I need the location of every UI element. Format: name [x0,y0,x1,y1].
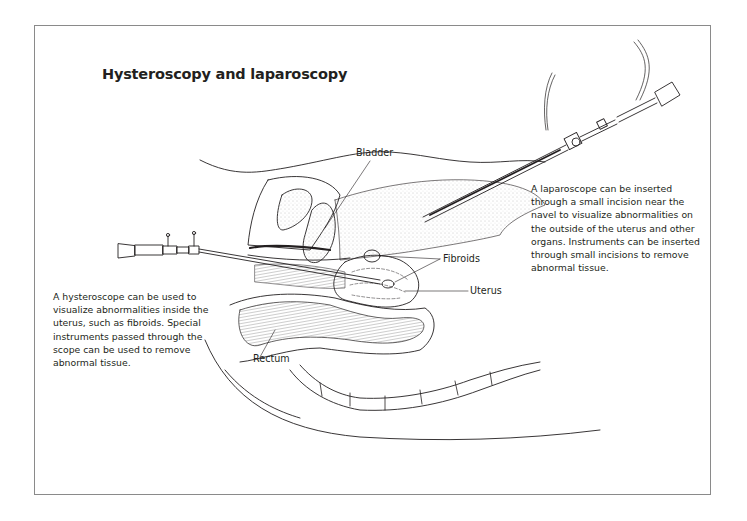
caption-line: abnormal tissue. [53,356,208,369]
caption-line: through a small incision near the [531,195,700,208]
uterus-shape [334,255,419,307]
caption-line: visualize abnormalities inside the [53,303,208,316]
caption-line: instruments passed through the [53,330,208,343]
sacrum [290,362,540,410]
caption-line: A laparoscope can be inserted [531,182,700,195]
caption-line: A hysteroscope can be used to [53,290,208,303]
caption-line: navel to visualize abnormalities on [531,208,700,221]
caption-hysteroscope: A hysteroscope can be used to visualize … [53,290,208,369]
label-uterus: Uterus [470,286,502,296]
label-bladder: Bladder [356,148,393,158]
caption-line: organs. Instruments can be inserted [531,235,700,248]
label-fibroids: Fibroids [443,254,480,264]
caption-line: the outside of the uterus and other [531,222,700,235]
caption-line: scope can be used to remove [53,343,208,356]
label-rectum: Rectum [253,354,290,364]
rectum-shape [239,302,424,346]
caption-line: uterus, such as fibroids. Special [53,316,208,329]
fibroids-leader [380,256,440,282]
fibroid-inner [382,280,394,288]
peritoneal-cavity [335,180,545,260]
caption-line: through small incisions to remove [531,248,700,261]
caption-line: abnormal tissue. [531,261,700,274]
caption-laparoscope: A laparoscope can be inserted through a … [531,182,700,274]
figure-title: Hysteroscopy and laparoscopy [102,66,347,82]
